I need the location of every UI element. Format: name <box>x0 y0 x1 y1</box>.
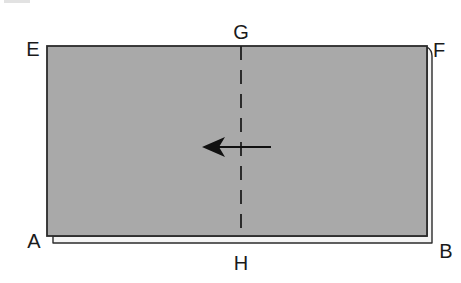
point-label-f: F <box>433 40 445 60</box>
folding-diagram: E F G A H B <box>0 0 461 283</box>
diagram-canvas <box>0 0 461 283</box>
point-label-a: A <box>27 231 40 251</box>
point-label-h: H <box>234 253 248 273</box>
point-label-e: E <box>26 39 39 59</box>
paper-sheet <box>47 46 427 236</box>
point-label-b: B <box>439 241 452 261</box>
point-label-g: G <box>233 22 249 42</box>
